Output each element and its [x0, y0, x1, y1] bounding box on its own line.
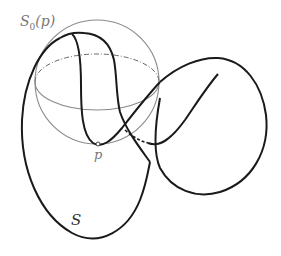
- point-label-text: p: [94, 147, 102, 162]
- surface-right-lobe: [155, 58, 266, 194]
- sphere-label-arg: (p): [35, 13, 55, 29]
- sphere-outline: [35, 20, 159, 144]
- sphere-label-base: S: [20, 13, 30, 29]
- surface-label: S: [71, 213, 81, 228]
- surface-sphere-diagram: [0, 0, 281, 256]
- sphere-label: S0(p): [20, 14, 55, 32]
- point-label: p: [94, 148, 102, 161]
- sphere-equator-back: [35, 54, 159, 82]
- point-p-marker: [96, 142, 100, 146]
- surface-label-text: S: [71, 211, 81, 229]
- surface-outer-curve: [22, 38, 150, 238]
